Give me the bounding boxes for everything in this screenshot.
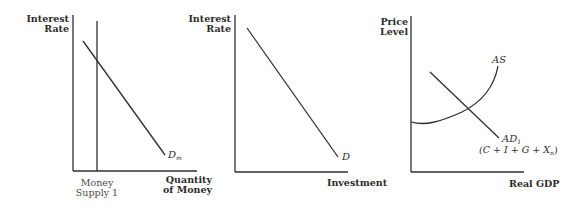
ad-formula-close: ): [554, 144, 558, 155]
money-y-label-line2: Rate: [6, 24, 69, 34]
price-y-axis-label: Price Level: [360, 17, 408, 37]
investment-y-axis-label: Interest Rate: [165, 14, 231, 34]
money-demand-subscript: m: [176, 154, 182, 161]
investment-demand-line: [247, 28, 338, 157]
as-curve-label: AS: [492, 55, 506, 65]
investment-x-axis-label: Investment: [327, 178, 387, 188]
money-supply-line2: Supply 1: [72, 188, 122, 198]
investment-graph: [235, 15, 348, 172]
ad-formula-label: (C + I + G + Xn): [479, 145, 558, 158]
investment-demand-label: D: [342, 152, 350, 162]
investment-y-label-line2: Rate: [165, 24, 231, 34]
money-x-axis-label: Quantity of Money: [150, 175, 212, 195]
money-x-label-line2: of Money: [150, 185, 212, 195]
money-supply-label: Money Supply 1: [72, 178, 122, 198]
money-demand-line: [83, 41, 165, 155]
gdp-x-axis-label: Real GDP: [509, 179, 560, 189]
money-y-axis-label: Interest Rate: [6, 14, 69, 34]
diagram-canvas: Interest Rate Dm Money Supply 1 Quantity…: [0, 0, 587, 213]
ad-letters: AD: [502, 133, 517, 144]
ad-formula-text: (C + I + G + X: [479, 144, 550, 155]
money-market-graph: [73, 15, 197, 171]
money-demand-letter: D: [168, 149, 176, 160]
price-y-label-line2: Level: [360, 27, 408, 37]
ad-curve: [430, 72, 499, 138]
money-demand-label: Dm: [168, 150, 182, 163]
